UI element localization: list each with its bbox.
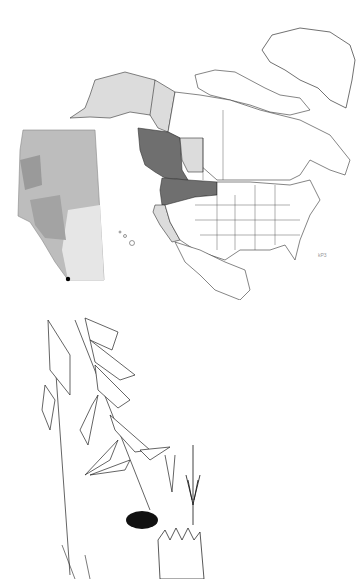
occurrence-marker [66, 277, 70, 281]
small-leaf [42, 385, 55, 430]
involucre-detail [158, 528, 204, 579]
pappus-detail [186, 445, 200, 525]
leaf [110, 415, 150, 452]
floret-detail [165, 455, 175, 492]
flower-head [126, 511, 158, 529]
alberta-region [180, 138, 203, 172]
leaf [80, 395, 98, 445]
alberta-inset [18, 130, 104, 281]
distribution-map [0, 0, 356, 300]
root-detail [62, 545, 90, 579]
leaf [85, 318, 118, 350]
leaf [48, 320, 70, 395]
botanical-illustration [0, 300, 356, 579]
map-code-label: kP3 [318, 252, 327, 258]
hawaii-islands [119, 231, 135, 246]
